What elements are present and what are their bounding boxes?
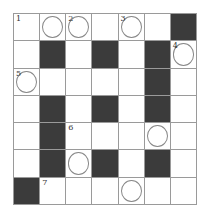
crossword-cell[interactable]: [144, 122, 170, 149]
circle-icon: [147, 125, 168, 147]
crossword-cell[interactable]: [170, 68, 196, 95]
block-cell: [144, 40, 170, 67]
crossword-cell[interactable]: 5: [13, 68, 39, 95]
crossword-cell[interactable]: [13, 95, 39, 122]
crossword-cell[interactable]: [13, 122, 39, 149]
crossword-cell[interactable]: [13, 40, 39, 67]
crossword-cell[interactable]: [91, 68, 117, 95]
crossword-cell[interactable]: [65, 177, 91, 204]
block-cell: [91, 40, 117, 67]
crossword-cell[interactable]: 1: [13, 13, 39, 40]
crossword-cell[interactable]: 4: [170, 40, 196, 67]
crossword-cell[interactable]: [118, 177, 144, 204]
crossword-cell[interactable]: [118, 95, 144, 122]
crossword-cell[interactable]: [91, 122, 117, 149]
crossword-cell[interactable]: 7: [39, 177, 65, 204]
clue-number: 3: [121, 14, 126, 23]
crossword-cell[interactable]: [65, 68, 91, 95]
crossword-cell[interactable]: [118, 149, 144, 176]
block-cell: [91, 149, 117, 176]
block-cell: [144, 149, 170, 176]
clue-number: 2: [68, 14, 73, 23]
crossword-cell[interactable]: [144, 13, 170, 40]
block-cell: [39, 149, 65, 176]
crossword-cell[interactable]: [118, 122, 144, 149]
crossword-grid: 1234567: [13, 13, 197, 205]
crossword-cell[interactable]: [65, 149, 91, 176]
circle-icon: [68, 152, 89, 174]
crossword-cell[interactable]: [65, 95, 91, 122]
crossword-cell[interactable]: [13, 149, 39, 176]
crossword-cell[interactable]: [65, 40, 91, 67]
block-cell: [91, 95, 117, 122]
block-cell: [39, 40, 65, 67]
crossword-cell[interactable]: [170, 149, 196, 176]
crossword-cell[interactable]: [170, 177, 196, 204]
crossword-cell[interactable]: [91, 13, 117, 40]
crossword-cell[interactable]: [118, 40, 144, 67]
crossword-cell[interactable]: [39, 13, 65, 40]
crossword-cell[interactable]: [39, 68, 65, 95]
crossword-cell[interactable]: 3: [118, 13, 144, 40]
block-cell: [170, 13, 196, 40]
clue-number: 5: [16, 69, 21, 78]
circle-icon: [121, 180, 142, 202]
crossword-cell[interactable]: 2: [65, 13, 91, 40]
block-cell: [144, 68, 170, 95]
block-cell: [144, 95, 170, 122]
clue-number: 7: [42, 178, 47, 187]
block-cell: [13, 177, 39, 204]
clue-number: 1: [16, 14, 21, 23]
block-cell: [39, 122, 65, 149]
clue-number: 6: [68, 123, 73, 132]
clue-number: 4: [173, 41, 178, 50]
crossword-cell[interactable]: [144, 177, 170, 204]
crossword-cell[interactable]: [91, 177, 117, 204]
circle-icon: [42, 16, 63, 38]
crossword-cell[interactable]: [118, 68, 144, 95]
block-cell: [39, 95, 65, 122]
crossword-cell[interactable]: [170, 122, 196, 149]
crossword-cell[interactable]: 6: [65, 122, 91, 149]
crossword-cell[interactable]: [170, 95, 196, 122]
